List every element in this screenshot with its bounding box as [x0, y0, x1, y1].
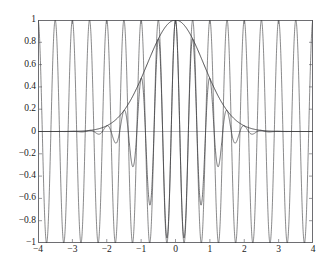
x-tick-label: 3 [276, 245, 281, 255]
y-tick-label: 0 [4, 127, 36, 137]
y-axis-tick-labels: −1−0.8−0.6−0.4−0.200.20.40.60.81 [0, 20, 36, 243]
y-tick-label: 1 [4, 15, 36, 25]
y-tick-label: −0.8 [4, 216, 36, 226]
x-tick-label: −3 [67, 245, 77, 255]
y-tick-label: −1 [4, 238, 36, 248]
x-tick-label: 4 [311, 245, 316, 255]
y-tick-label: 0.4 [4, 82, 36, 92]
x-axis-tick-labels: −4−3−2−101234 [38, 245, 313, 261]
x-tick-label: 1 [208, 245, 213, 255]
series-gaussian-envelope [38, 20, 313, 132]
x-tick-label: −2 [102, 245, 112, 255]
y-tick-label: −0.2 [4, 149, 36, 159]
figure-canvas: −1−0.8−0.6−0.4−0.200.20.40.60.81 −4−3−2−… [0, 0, 330, 273]
y-tick-label: 0.2 [4, 104, 36, 114]
y-tick-label: −0.4 [4, 171, 36, 181]
figure-top-caption [0, 0, 330, 12]
plot-svg [38, 20, 313, 243]
plot-area [38, 20, 313, 243]
y-tick-label: −0.6 [4, 193, 36, 203]
x-tick-label: −1 [136, 245, 146, 255]
x-tick-label: 0 [173, 245, 178, 255]
y-tick-label: 0.8 [4, 37, 36, 47]
y-tick-label: 0.6 [4, 60, 36, 70]
x-tick-label: −4 [33, 245, 43, 255]
x-tick-label: 2 [242, 245, 247, 255]
series-gabor-modulated [38, 20, 313, 238]
